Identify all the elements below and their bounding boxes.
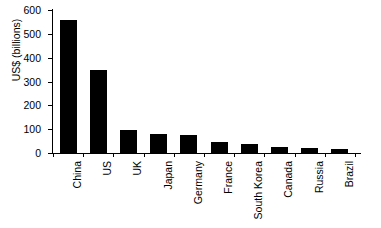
x-axis-tick — [113, 153, 114, 157]
x-axis-tick — [144, 153, 145, 157]
x-axis-tick — [355, 153, 356, 157]
bar — [60, 20, 77, 153]
bar-chart: US$ (billions) 0100200300400500600ChinaU… — [0, 0, 381, 228]
y-axis-tick-label: 500 — [0, 28, 41, 39]
x-axis-tick — [264, 153, 265, 157]
x-axis-category-label: Japan — [163, 161, 174, 228]
bar — [150, 134, 167, 153]
x-axis-category-label: China — [72, 161, 83, 228]
bar — [331, 149, 348, 153]
bar — [90, 70, 107, 153]
x-axis-category-label: Canada — [283, 161, 294, 228]
y-axis-tick — [48, 153, 52, 154]
y-axis-tick-label: 400 — [0, 52, 41, 63]
x-axis-category-label: UK — [132, 161, 143, 228]
y-axis-tick-label: 200 — [0, 100, 41, 111]
y-axis-tick — [48, 105, 52, 106]
bar — [241, 144, 258, 153]
x-axis-line — [52, 153, 361, 154]
bar — [180, 135, 197, 153]
x-axis-tick — [174, 153, 175, 157]
x-axis-category-label: Russia — [314, 161, 325, 228]
y-axis-tick — [48, 58, 52, 59]
bar — [301, 148, 318, 153]
y-axis-tick — [48, 34, 52, 35]
x-axis-tick — [83, 153, 84, 157]
x-axis-tick — [295, 153, 296, 157]
x-axis-tick — [204, 153, 205, 157]
y-axis-tick-label: 0 — [0, 148, 41, 159]
x-axis-tick — [325, 153, 326, 157]
y-axis-tick — [48, 10, 52, 11]
x-axis-tick — [53, 153, 54, 157]
x-axis-category-label: France — [223, 161, 234, 228]
y-axis-tick — [48, 82, 52, 83]
x-axis-tick — [234, 153, 235, 157]
bar — [120, 130, 137, 153]
bar — [211, 142, 228, 153]
x-axis-category-label: US — [102, 161, 113, 228]
bar — [271, 147, 288, 153]
y-axis-tick — [48, 129, 52, 130]
y-axis-tick-label: 600 — [0, 5, 41, 16]
plot-area — [52, 10, 360, 153]
x-axis-category-label: Germany — [193, 161, 204, 228]
y-axis-tick-label: 300 — [0, 76, 41, 87]
x-axis-category-label: Brazil — [344, 161, 355, 228]
x-axis-category-label: South Korea — [253, 161, 264, 228]
y-axis-tick-label: 100 — [0, 124, 41, 135]
